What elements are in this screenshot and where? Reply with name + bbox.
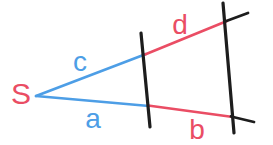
- ray-extension-top-black: [225, 13, 248, 22]
- transversal-1-black: [141, 33, 150, 127]
- label-a: a: [85, 103, 101, 134]
- diagram-svg: Scadb: [0, 0, 273, 145]
- diagram-canvas: Scadb: [0, 0, 273, 145]
- transversal-2-black: [223, 3, 234, 133]
- label-b: b: [189, 114, 205, 145]
- label-d: d: [172, 9, 188, 40]
- segment-c-blue: [36, 54, 146, 96]
- label-c: c: [73, 46, 87, 77]
- label-apex-s: S: [11, 77, 31, 110]
